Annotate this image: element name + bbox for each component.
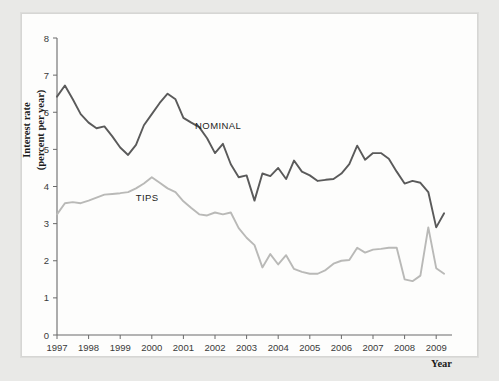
figure-container: 012345678 199719981999200020012002200320… — [0, 0, 499, 381]
series-annotation-nominal: NOMINAL — [195, 120, 241, 131]
data-series-group — [57, 86, 444, 282]
y-tick-label: 4 — [44, 181, 49, 192]
x-axis-ticks: 1997199819992000200120022003200420052006… — [46, 335, 446, 353]
interest-rate-line-chart: 012345678 199719981999200020012002200320… — [0, 0, 499, 381]
x-tick-label: 2003 — [236, 342, 257, 353]
x-tick-label: 1998 — [78, 342, 99, 353]
x-tick-label: 2008 — [394, 342, 415, 353]
series-annotations: NOMINALTIPS — [136, 120, 242, 203]
y-axis-title-line2: (percent per year) — [35, 89, 47, 170]
x-tick-label: 2006 — [331, 342, 352, 353]
y-axis-title-line1: Interest rate — [21, 102, 32, 158]
axis-titles: Interest rate (percent per year) Year — [21, 89, 452, 369]
x-tick-label: 2009 — [426, 342, 447, 353]
x-tick-label: 2002 — [204, 342, 225, 353]
x-tick-label: 2005 — [299, 342, 320, 353]
x-tick-label: 2001 — [173, 342, 194, 353]
series-annotation-tips: TIPS — [136, 192, 159, 203]
y-tick-label: 1 — [44, 292, 49, 303]
y-tick-label: 3 — [44, 218, 49, 229]
y-axis-ticks: 012345678 — [44, 33, 57, 341]
series-line-tips — [57, 177, 444, 281]
y-tick-label: 2 — [44, 255, 49, 266]
x-tick-label: 1999 — [110, 342, 131, 353]
x-axis-title: Year — [431, 358, 452, 369]
x-tick-label: 2004 — [268, 342, 289, 353]
y-tick-label: 0 — [44, 330, 49, 341]
x-tick-label: 1997 — [46, 342, 67, 353]
y-tick-label: 8 — [44, 33, 49, 44]
axes: 012345678 199719981999200020012002200320… — [44, 33, 452, 354]
series-line-nominal — [57, 86, 444, 228]
y-tick-label: 7 — [44, 70, 49, 81]
x-tick-label: 2000 — [141, 342, 162, 353]
x-tick-label: 2007 — [362, 342, 383, 353]
